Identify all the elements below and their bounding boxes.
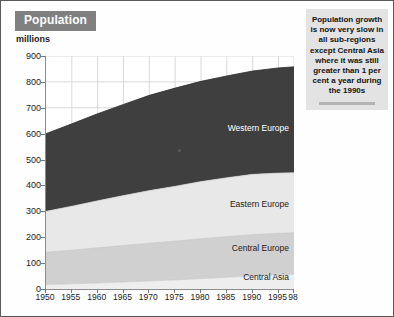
chart-page: Population millions Population growth is… xyxy=(0,0,394,317)
marker-dot-icon xyxy=(178,149,181,152)
y-axis-tick-label: 100 xyxy=(15,258,41,268)
callout-rule xyxy=(319,102,375,105)
callout-text: Population growth is now very slow in al… xyxy=(310,15,384,97)
page-title: Population xyxy=(15,11,96,31)
x-axis-tick xyxy=(293,289,294,293)
y-axis-tick-label: 600 xyxy=(15,129,41,139)
y-axis-tick-label: 700 xyxy=(15,103,41,113)
x-axis-tick xyxy=(226,289,227,293)
y-axis-tick xyxy=(41,82,45,83)
x-axis-tick xyxy=(174,289,175,293)
population-area-chart: 0100200300400500600700800900195019551960… xyxy=(45,56,293,289)
y-axis-tick xyxy=(41,56,45,57)
x-axis-tick xyxy=(45,289,46,293)
x-axis-tick xyxy=(123,289,124,293)
y-axis-tick xyxy=(41,108,45,109)
y-axis-tick xyxy=(41,185,45,186)
y-axis-tick-label: 900 xyxy=(15,51,41,61)
callout-box: Population growth is now very slow in al… xyxy=(306,9,388,110)
series-label-central-asia: Central Asia xyxy=(45,272,289,282)
y-axis-tick-label: 300 xyxy=(15,206,41,216)
series-label-eastern-europe: Eastern Europe xyxy=(45,199,289,209)
x-axis-tick xyxy=(252,289,253,293)
x-axis-tick xyxy=(71,289,72,293)
y-axis-tick xyxy=(41,237,45,238)
y-axis-tick-label: 400 xyxy=(15,180,41,190)
y-axis-units-label: millions xyxy=(16,34,50,44)
y-axis-tick-label: 800 xyxy=(15,77,41,87)
x-axis-tick xyxy=(97,289,98,293)
x-axis-tick xyxy=(148,289,149,293)
series-label-central-europe: Central Europe xyxy=(45,243,289,253)
y-axis-tick xyxy=(41,134,45,135)
y-axis-tick xyxy=(41,211,45,212)
x-axis-tick xyxy=(200,289,201,293)
x-axis-tick-label: 98 xyxy=(276,292,310,302)
series-label-western-europe: Western Europe xyxy=(45,123,289,133)
stacked-area-svg xyxy=(46,56,294,289)
y-axis-tick-label: 500 xyxy=(15,155,41,165)
y-axis-tick-label: 200 xyxy=(15,232,41,242)
y-axis-tick xyxy=(41,160,45,161)
plot-area xyxy=(45,56,294,290)
y-axis-tick xyxy=(41,263,45,264)
